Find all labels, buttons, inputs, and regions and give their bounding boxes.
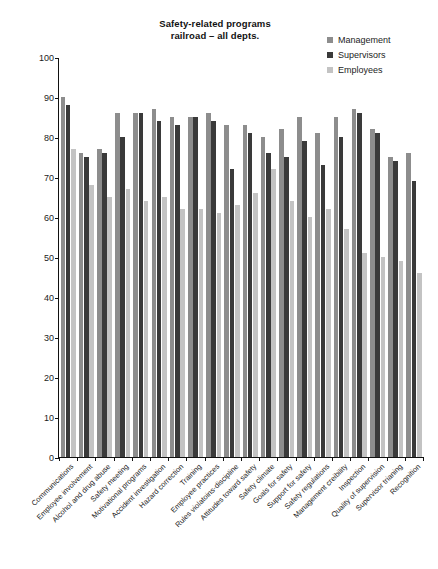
x-axis-tick-mark: [387, 457, 388, 461]
bar-group: [387, 58, 405, 457]
chart-title: Safety-related programs railroad – all d…: [110, 18, 320, 42]
bar-management: [352, 109, 357, 457]
bar-management: [133, 113, 138, 457]
bar-employees: [180, 209, 185, 457]
bar-management: [406, 153, 411, 457]
y-axis-tick-mark: [55, 298, 59, 299]
bar-management: [79, 153, 84, 457]
y-axis-tick-mark: [55, 138, 59, 139]
x-axis-tick-mark: [150, 457, 151, 461]
x-axis-tick-mark: [205, 457, 206, 461]
bar-employees: [126, 189, 131, 457]
bar-employees: [107, 197, 112, 457]
bar-employees: [381, 257, 386, 457]
bar-group: [223, 58, 241, 457]
legend-swatch-management: [327, 37, 333, 43]
bar-management: [279, 129, 284, 457]
bar-employees: [399, 261, 404, 457]
bar-management: [224, 125, 229, 457]
bar-group: [77, 58, 95, 457]
bar-employees: [144, 201, 149, 457]
bar-group: [205, 58, 223, 457]
bar-supervisors: [211, 121, 216, 457]
bar-management: [315, 133, 320, 457]
bar-groups: [59, 58, 423, 457]
x-axis-tick-mark: [277, 457, 278, 461]
x-axis-tick-mark: [114, 457, 115, 461]
x-axis-tick-mark: [59, 457, 60, 461]
x-axis-tick-mark: [168, 457, 169, 461]
bar-management: [297, 117, 302, 457]
bar-management: [115, 113, 120, 457]
bar-employees: [308, 217, 313, 457]
legend-label-management: Management: [338, 35, 391, 45]
x-axis-tick-mark: [314, 457, 315, 461]
legend-item-management: Management: [327, 32, 391, 47]
bar-employees: [199, 209, 204, 457]
x-axis-labels: CommunicationsEmployee involvementAlcoho…: [58, 462, 423, 567]
bar-employees: [217, 213, 222, 457]
bar-employees: [290, 201, 295, 457]
bar-group: [241, 58, 259, 457]
bar-group: [95, 58, 113, 457]
x-axis-tick-mark: [259, 457, 260, 461]
bar-supervisors: [84, 157, 89, 457]
x-axis-tick-mark: [296, 457, 297, 461]
plot-area: 0102030405060708090100: [58, 58, 423, 458]
bar-group: [314, 58, 332, 457]
bar-supervisors: [412, 181, 417, 457]
chart-title-line-2: railroad – all depts.: [110, 30, 320, 42]
bar-supervisors: [248, 133, 253, 457]
bar-group: [132, 58, 150, 457]
bar-employees: [344, 229, 349, 457]
bar-employees: [326, 209, 331, 457]
y-axis-tick-mark: [55, 378, 59, 379]
legend-swatch-supervisors: [327, 52, 333, 58]
y-axis-tick-mark: [55, 218, 59, 219]
bar-supervisors: [393, 161, 398, 457]
x-axis-tick-mark: [350, 457, 351, 461]
bar-group: [296, 58, 314, 457]
y-axis-tick-mark: [55, 98, 59, 99]
bar-supervisors: [375, 133, 380, 457]
x-axis-tick-mark: [423, 457, 424, 461]
bar-management: [61, 97, 66, 457]
bar-supervisors: [120, 137, 125, 457]
bar-management: [388, 157, 393, 457]
bar-supervisors: [102, 153, 107, 457]
bar-supervisors: [357, 113, 362, 457]
y-axis-tick-mark: [55, 338, 59, 339]
bar-management: [243, 125, 248, 457]
bar-chart: Safety-related programs railroad – all d…: [0, 0, 438, 569]
bar-management: [206, 113, 211, 457]
bar-supervisors: [266, 153, 271, 457]
bar-employees: [162, 197, 167, 457]
bar-group: [259, 58, 277, 457]
x-axis-tick-mark: [368, 457, 369, 461]
bar-group: [168, 58, 186, 457]
bar-group: [332, 58, 350, 457]
bar-group: [150, 58, 168, 457]
x-axis-tick-mark: [77, 457, 78, 461]
bar-supervisors: [339, 137, 344, 457]
bar-group: [114, 58, 132, 457]
y-axis-tick-mark: [55, 258, 59, 259]
bar-group: [368, 58, 386, 457]
bar-group: [405, 58, 423, 457]
y-axis-tick-mark: [55, 178, 59, 179]
bar-employees: [235, 205, 240, 457]
bar-employees: [71, 149, 76, 457]
x-axis-tick-mark: [95, 457, 96, 461]
bar-employees: [253, 193, 258, 457]
bar-management: [170, 117, 175, 457]
bar-supervisors: [139, 113, 144, 457]
y-axis-tick-mark: [55, 58, 59, 59]
bar-supervisors: [157, 121, 162, 457]
bar-management: [188, 117, 193, 457]
bar-supervisors: [66, 105, 71, 457]
bar-supervisors: [193, 117, 198, 457]
bar-management: [334, 117, 339, 457]
bar-management: [370, 129, 375, 457]
bar-supervisors: [175, 125, 180, 457]
bar-employees: [89, 185, 94, 457]
